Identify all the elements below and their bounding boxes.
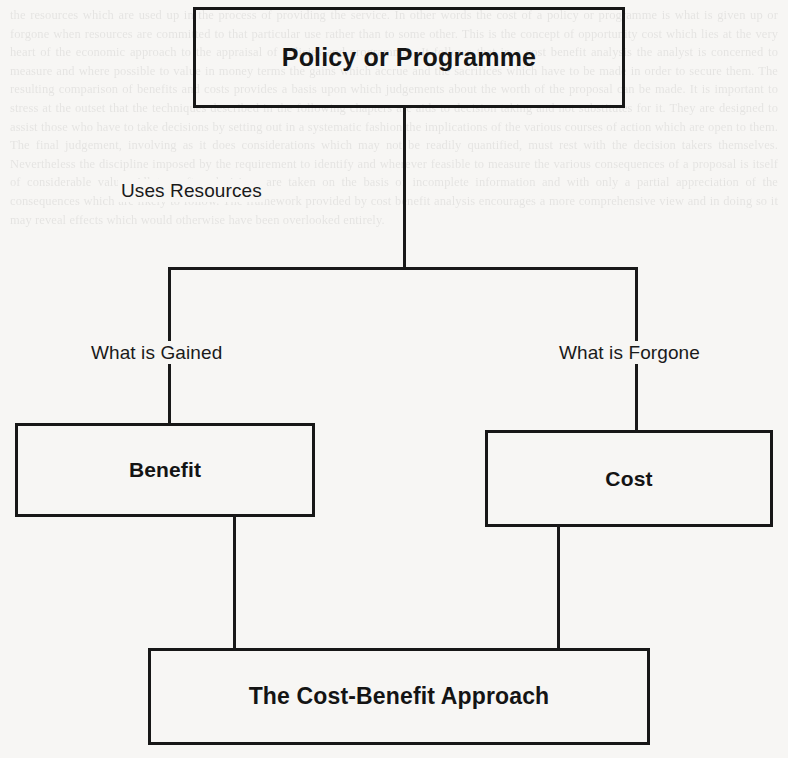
edge-label-what-is-forgone: What is Forgone (556, 341, 703, 364)
edge-policy-to-split (403, 106, 406, 270)
diagram-canvas: the resources which are used up in the p… (0, 0, 788, 758)
node-cost-label: Cost (605, 467, 652, 491)
page-bleedthrough-text: the resources which are used up in the p… (0, 0, 788, 758)
edge-label-what-is-gained: What is Gained (88, 341, 225, 364)
node-policy-or-programme: Policy or Programme (193, 7, 625, 108)
node-the-cost-benefit-approach: The Cost-Benefit Approach (148, 648, 650, 745)
node-benefit-label: Benefit (129, 458, 201, 482)
edge-cost-to-approach (557, 525, 560, 650)
node-benefit: Benefit (15, 423, 315, 517)
node-cost: Cost (485, 430, 773, 527)
edge-benefit-to-approach (233, 515, 236, 650)
edge-split-bar (168, 267, 638, 270)
node-the-cost-benefit-approach-label: The Cost-Benefit Approach (249, 683, 550, 710)
node-policy-or-programme-label: Policy or Programme (282, 43, 536, 72)
edge-label-uses-resources: Uses Resources (118, 179, 265, 202)
